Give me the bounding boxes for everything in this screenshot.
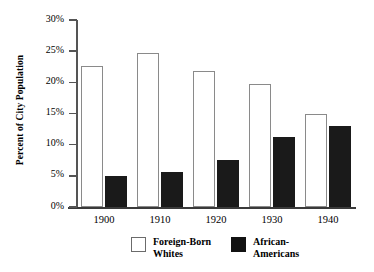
y-tick-label: 0% [24, 200, 64, 211]
legend-label: Foreign-BornWhites [153, 236, 211, 259]
y-tick-mark [69, 50, 77, 52]
y-tick-mark [69, 144, 77, 146]
y-tick-label: 25% [24, 44, 64, 55]
bar-chart: Percent of City Population 0%5%10%15%20%… [0, 0, 374, 272]
bar-1900-foreign-born-whites [81, 66, 103, 207]
y-tick-mark [69, 206, 77, 208]
legend-item-foreign-born-whites: Foreign-BornWhites [131, 236, 211, 259]
chart-legend: Foreign-BornWhitesAfrican-Americans [0, 236, 374, 270]
legend-swatch-black [231, 237, 246, 252]
y-tick-mark [69, 19, 77, 21]
bar-1920-foreign-born-whites [193, 71, 215, 207]
x-tick-label-1920: 1920 [186, 214, 246, 225]
x-tick-label-1900: 1900 [74, 214, 134, 225]
bar-1900-african-americans [105, 176, 127, 207]
legend-label: African-Americans [253, 236, 299, 259]
x-tick-label-1940: 1940 [298, 214, 358, 225]
legend-swatch-white [131, 237, 146, 252]
plot-area: 0%5%10%15%20%25%30% 19001910192019301940 [76, 20, 356, 207]
y-tick-mark [69, 175, 77, 177]
y-tick-mark [69, 113, 77, 115]
y-tick-label: 20% [24, 75, 64, 86]
y-tick-label: 30% [24, 13, 64, 24]
y-tick-mark [69, 82, 77, 84]
bar-1920-african-americans [217, 160, 239, 207]
x-axis-line [68, 207, 356, 209]
y-tick-label: 5% [24, 168, 64, 179]
y-tick-label: 15% [24, 106, 64, 117]
bar-1910-african-americans [161, 172, 183, 207]
x-tick-label-1910: 1910 [130, 214, 190, 225]
bar-1910-foreign-born-whites [137, 53, 159, 207]
legend-item-african-americans: African-Americans [231, 236, 299, 259]
y-tick-label: 10% [24, 137, 64, 148]
bar-1940-african-americans [329, 126, 351, 207]
bar-1940-foreign-born-whites [305, 114, 327, 208]
x-tick-label-1930: 1930 [242, 214, 302, 225]
bar-1930-foreign-born-whites [249, 84, 271, 207]
bar-1930-african-americans [273, 137, 295, 207]
